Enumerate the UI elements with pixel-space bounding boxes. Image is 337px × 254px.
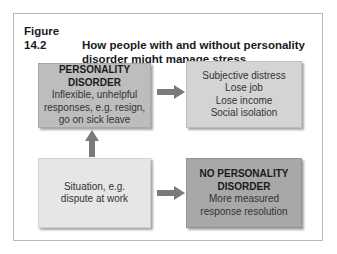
- personality-disorder-box: PERSONALITY DISORDER Inflexible, unhelpf…: [38, 63, 151, 128]
- npd-heading-1: NO PERSONALITY: [200, 168, 289, 181]
- pd-line: Inflexible, unhelpful: [52, 89, 138, 102]
- no-personality-disorder-box: NO PERSONALITY DISORDER More measured re…: [186, 158, 302, 228]
- pd-line: go on sick leave: [59, 114, 131, 127]
- npd-line: More measured: [209, 193, 279, 206]
- consequence-item: Subjective distress: [202, 70, 285, 83]
- consequence-item: Lose job: [225, 82, 263, 95]
- npd-heading-2: DISORDER: [218, 181, 271, 194]
- consequences-box: Subjective distress Lose job Lose income…: [186, 61, 302, 128]
- pd-line: responses, e.g. resign,: [44, 102, 145, 115]
- figure-title: Figure 14.2How people with and without p…: [24, 24, 305, 66]
- pd-heading-2: DISORDER: [68, 77, 121, 90]
- pd-heading-1: PERSONALITY: [59, 64, 130, 77]
- situation-box: Situation, e.g. dispute at work: [38, 158, 151, 228]
- consequence-item: Lose income: [216, 95, 273, 108]
- situation-line: dispute at work: [61, 193, 128, 206]
- figure-number: Figure 14.2: [24, 24, 82, 52]
- arrow-right-icon: [157, 85, 185, 99]
- arrow-right-icon: [157, 186, 185, 200]
- consequence-item: Social isolation: [211, 107, 278, 120]
- situation-line: Situation, e.g.: [64, 181, 125, 194]
- arrow-up-icon: [85, 130, 99, 157]
- npd-line: response resolution: [200, 206, 287, 219]
- figure-title-line1: How people with and without personality: [82, 39, 305, 51]
